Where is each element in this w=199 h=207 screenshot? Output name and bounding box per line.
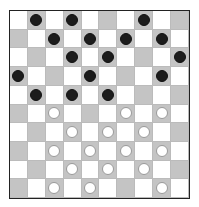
square-r4-c8[interactable]: [153, 86, 171, 105]
square-r1-c6[interactable]: [117, 30, 135, 49]
square-r2-c9[interactable]: [171, 48, 189, 67]
white-piece[interactable]: [138, 163, 150, 175]
square-r6-c9[interactable]: [171, 123, 189, 142]
square-r2-c4[interactable]: [82, 48, 100, 67]
square-r5-c9[interactable]: [171, 105, 189, 124]
square-r7-c6[interactable]: [117, 142, 135, 161]
square-r0-c3[interactable]: [64, 11, 82, 30]
black-piece[interactable]: [12, 70, 24, 82]
square-r6-c6[interactable]: [117, 123, 135, 142]
square-r0-c4[interactable]: [82, 11, 100, 30]
square-r3-c0[interactable]: [10, 67, 28, 86]
square-r4-c7[interactable]: [135, 86, 153, 105]
white-piece[interactable]: [84, 182, 96, 194]
white-piece[interactable]: [66, 126, 78, 138]
white-piece[interactable]: [102, 163, 114, 175]
square-r7-c7[interactable]: [135, 142, 153, 161]
square-r7-c4[interactable]: [82, 142, 100, 161]
square-r2-c3[interactable]: [64, 48, 82, 67]
square-r2-c8[interactable]: [153, 48, 171, 67]
square-r8-c9[interactable]: [171, 161, 189, 180]
black-piece[interactable]: [66, 89, 78, 101]
square-r4-c5[interactable]: [99, 86, 117, 105]
white-piece[interactable]: [48, 145, 60, 157]
square-r3-c4[interactable]: [82, 67, 100, 86]
square-r4-c2[interactable]: [46, 86, 64, 105]
square-r1-c9[interactable]: [171, 30, 189, 49]
square-r2-c5[interactable]: [99, 48, 117, 67]
black-piece[interactable]: [30, 14, 42, 26]
white-piece[interactable]: [102, 126, 114, 138]
square-r3-c7[interactable]: [135, 67, 153, 86]
square-r6-c3[interactable]: [64, 123, 82, 142]
black-piece[interactable]: [102, 51, 114, 63]
square-r1-c0[interactable]: [10, 30, 28, 49]
square-r9-c2[interactable]: [46, 179, 64, 198]
black-piece[interactable]: [156, 70, 168, 82]
square-r1-c8[interactable]: [153, 30, 171, 49]
square-r1-c4[interactable]: [82, 30, 100, 49]
square-r2-c0[interactable]: [10, 48, 28, 67]
square-r4-c4[interactable]: [82, 86, 100, 105]
square-r4-c6[interactable]: [117, 86, 135, 105]
white-piece[interactable]: [120, 145, 132, 157]
square-r4-c0[interactable]: [10, 86, 28, 105]
square-r8-c6[interactable]: [117, 161, 135, 180]
black-piece[interactable]: [84, 33, 96, 45]
square-r5-c3[interactable]: [64, 105, 82, 124]
black-piece[interactable]: [120, 33, 132, 45]
white-piece[interactable]: [66, 163, 78, 175]
square-r1-c1[interactable]: [28, 30, 46, 49]
square-r8-c4[interactable]: [82, 161, 100, 180]
square-r5-c4[interactable]: [82, 105, 100, 124]
black-piece[interactable]: [156, 33, 168, 45]
white-piece[interactable]: [84, 145, 96, 157]
square-r0-c9[interactable]: [171, 11, 189, 30]
square-r6-c8[interactable]: [153, 123, 171, 142]
square-r1-c7[interactable]: [135, 30, 153, 49]
square-r5-c8[interactable]: [153, 105, 171, 124]
square-r3-c8[interactable]: [153, 67, 171, 86]
square-r5-c0[interactable]: [10, 105, 28, 124]
square-r9-c5[interactable]: [99, 179, 117, 198]
black-piece[interactable]: [66, 51, 78, 63]
square-r6-c1[interactable]: [28, 123, 46, 142]
white-piece[interactable]: [48, 182, 60, 194]
square-r7-c1[interactable]: [28, 142, 46, 161]
square-r2-c1[interactable]: [28, 48, 46, 67]
square-r1-c3[interactable]: [64, 30, 82, 49]
black-piece[interactable]: [138, 14, 150, 26]
square-r8-c0[interactable]: [10, 161, 28, 180]
square-r8-c2[interactable]: [46, 161, 64, 180]
white-piece[interactable]: [138, 126, 150, 138]
square-r7-c2[interactable]: [46, 142, 64, 161]
square-r2-c7[interactable]: [135, 48, 153, 67]
square-r3-c5[interactable]: [99, 67, 117, 86]
black-piece[interactable]: [174, 51, 186, 63]
square-r9-c6[interactable]: [117, 179, 135, 198]
square-r7-c0[interactable]: [10, 142, 28, 161]
square-r9-c0[interactable]: [10, 179, 28, 198]
square-r7-c3[interactable]: [64, 142, 82, 161]
square-r8-c5[interactable]: [99, 161, 117, 180]
square-r3-c3[interactable]: [64, 67, 82, 86]
square-r6-c5[interactable]: [99, 123, 117, 142]
square-r0-c2[interactable]: [46, 11, 64, 30]
square-r4-c1[interactable]: [28, 86, 46, 105]
square-r4-c3[interactable]: [64, 86, 82, 105]
square-r6-c2[interactable]: [46, 123, 64, 142]
square-r6-c4[interactable]: [82, 123, 100, 142]
square-r2-c6[interactable]: [117, 48, 135, 67]
square-r3-c9[interactable]: [171, 67, 189, 86]
square-r5-c2[interactable]: [46, 105, 64, 124]
black-piece[interactable]: [84, 70, 96, 82]
square-r8-c8[interactable]: [153, 161, 171, 180]
black-piece[interactable]: [102, 89, 114, 101]
square-r5-c1[interactable]: [28, 105, 46, 124]
white-piece[interactable]: [48, 107, 60, 119]
square-r9-c4[interactable]: [82, 179, 100, 198]
square-r2-c2[interactable]: [46, 48, 64, 67]
square-r5-c5[interactable]: [99, 105, 117, 124]
white-piece[interactable]: [156, 182, 168, 194]
square-r0-c6[interactable]: [117, 11, 135, 30]
